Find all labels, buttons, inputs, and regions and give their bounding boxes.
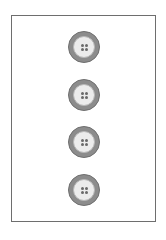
sewing-button-icon — [68, 174, 100, 206]
button-hole — [85, 44, 88, 47]
button-hole — [81, 143, 84, 146]
button-hole — [85, 143, 88, 146]
button-hole — [85, 139, 88, 142]
sewing-button-icon — [68, 31, 100, 63]
button-hole — [85, 191, 88, 194]
button-hole — [81, 96, 84, 99]
button-face — [73, 179, 95, 201]
button-hole — [85, 187, 88, 190]
button-hole — [81, 187, 84, 190]
button-face — [73, 131, 95, 153]
button-hole — [85, 92, 88, 95]
button-hole — [85, 48, 88, 51]
sewing-button-icon — [68, 79, 100, 111]
button-hole — [81, 44, 84, 47]
button-hole — [81, 48, 84, 51]
button-hole — [81, 191, 84, 194]
button-face — [73, 84, 95, 106]
button-hole — [81, 92, 84, 95]
button-face — [73, 36, 95, 58]
sewing-button-icon — [68, 126, 100, 158]
button-hole — [85, 96, 88, 99]
button-hole — [81, 139, 84, 142]
